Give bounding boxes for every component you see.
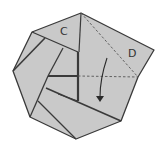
origami-diagram: C D (0, 0, 161, 146)
flap-d-label: D (128, 47, 136, 60)
flap-c-label: C (60, 25, 68, 38)
